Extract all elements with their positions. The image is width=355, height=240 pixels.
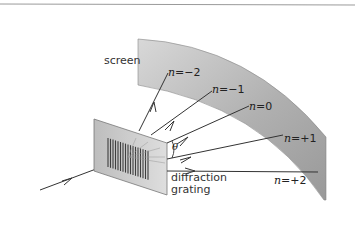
order-label-plus-1: n=+1 xyxy=(284,132,317,145)
order-eq: = xyxy=(256,100,265,113)
order-eq: = xyxy=(281,174,290,187)
order-eq: = xyxy=(291,132,300,145)
order-eq: = xyxy=(175,66,184,79)
order-value: −2 xyxy=(184,66,200,79)
order-label-0: n=0 xyxy=(249,100,272,113)
top-border-rule xyxy=(0,4,355,5)
order-value: −1 xyxy=(228,83,244,96)
grating-label-line2: grating xyxy=(171,183,211,196)
order-label-minus-2: n=−2 xyxy=(168,66,201,79)
order-value: 0 xyxy=(265,100,272,113)
diffraction-diagram: screen diffraction grating θ n=−2 n=−1 n… xyxy=(0,0,355,240)
order-eq: = xyxy=(219,83,228,96)
order-label-plus-2: n=+2 xyxy=(274,174,307,187)
order-value: +1 xyxy=(300,132,316,145)
ray-order-0 xyxy=(167,106,249,146)
ray-order-minus-1 xyxy=(151,91,212,135)
screen-label: screen xyxy=(104,54,141,67)
theta-label: θ xyxy=(172,141,178,153)
order-label-minus-1: n=−1 xyxy=(212,83,245,96)
order-value: +2 xyxy=(290,174,306,187)
